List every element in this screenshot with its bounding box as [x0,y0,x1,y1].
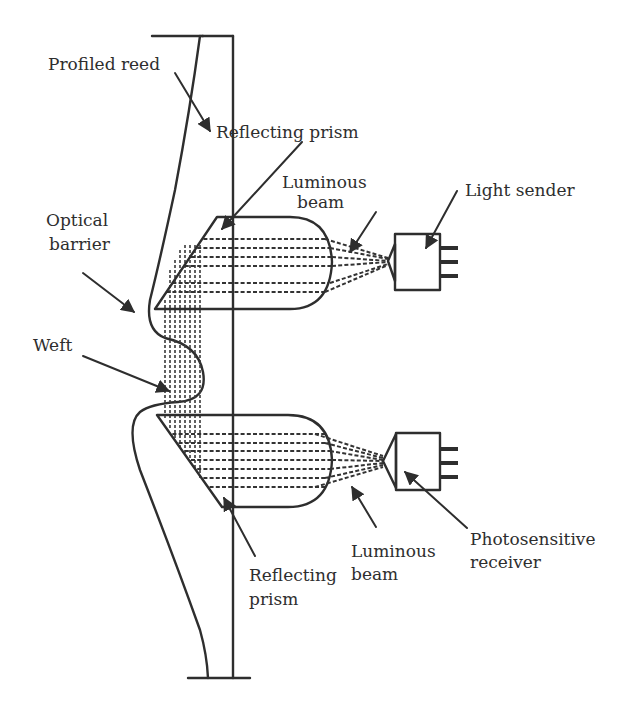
label-profiled-reed: Profiled reed [48,54,160,74]
arrow-luminous-beam-top [350,212,376,252]
label-weft: Weft [33,335,72,355]
light-sender [388,234,458,290]
arrow-luminous-beam-bottom [352,487,376,527]
label-reflecting-prism-bottom-1: Reflecting [249,565,337,585]
label-luminous-beam-bottom-2: beam [351,564,398,584]
arrow-light-sender [426,191,457,248]
diagram-canvas: Profiled reed Reflecting prism Luminous … [0,0,639,707]
label-photosensitive-receiver-1: Photosensitive [470,529,596,549]
luminous-beam-top [325,239,388,292]
reflecting-prism-top [155,217,332,309]
label-photosensitive-receiver-2: receiver [470,552,542,572]
receiver-body [396,433,440,490]
label-luminous-beam-bottom-1: Luminous [351,541,436,561]
label-light-sender: Light sender [465,180,575,200]
label-luminous-beam-top-1: Luminous [282,172,367,192]
label-optical-barrier-1: Optical [46,210,108,230]
reflecting-prism-bottom [157,415,332,507]
photosensitive-receiver [383,433,458,490]
label-reflecting-prism-bottom-2: prism [249,589,298,609]
arrow-photosensitive-receiver [405,472,467,528]
optical-weft-detector-diagram: Profiled reed Reflecting prism Luminous … [0,0,639,707]
leader-arrows [83,73,467,556]
label-optical-barrier-2: barrier [49,234,111,254]
receiver-lens [383,434,396,488]
label-luminous-beam-top-2: beam [297,192,344,212]
labels: Profiled reed Reflecting prism Luminous … [33,54,596,609]
arrow-weft [83,356,169,391]
light-sender-body [395,234,440,290]
label-reflecting-prism-top: Reflecting prism [216,122,359,142]
arrow-optical-barrier [83,273,134,312]
